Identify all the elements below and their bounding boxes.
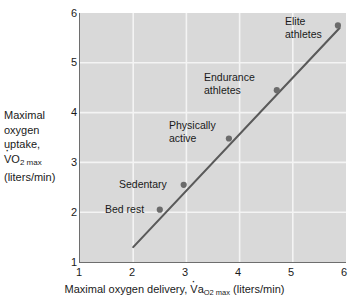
y-tick-2: 2 [55,207,77,218]
y-tick-5: 5 [55,57,77,68]
x-tick-1: 1 [72,267,86,278]
annotation-endurance-athletes-line-2: athletes [204,84,255,97]
y-axis-title-line-4: VO2 max [4,152,76,170]
y-axis-title-line-5: (liters/min) [4,170,76,185]
v-dot-symbol-y: V [4,152,11,167]
plot-area: Bed rest Sedentary Physically active End… [79,13,346,263]
x-axis-subscript: O2 max [204,288,230,297]
annotation-endurance-athletes-line-1: Endurance [204,71,255,84]
x-axis-title-suffix: (liters/min) [230,283,284,295]
y-axis-title: Maximal oxygen uptake, VO2 max (liters/m… [4,108,76,184]
data-points [157,22,341,212]
y-axis-title-line-2: oxygen [4,123,76,138]
data-point-elite-athletes [335,22,341,28]
annotation-physically-active-line-1: Physically [169,119,216,132]
chart-figure: 6 5 4 3 2 1 1 2 3 4 5 6 Maximal oxygen u… [0,0,349,302]
annotation-elite-athletes-line-2: athletes [285,28,322,41]
x-axis-title: Maximal oxygen delivery, VaO2 max (liter… [0,283,349,299]
data-point-endurance-athletes [274,87,280,93]
annotation-elite-athletes: Elite athletes [285,15,322,40]
y-tick-6: 6 [55,8,77,19]
x-tick-5: 5 [284,267,298,278]
annotation-physically-active-line-2: active [169,132,216,145]
annotation-bed-rest: Bed rest [105,203,144,215]
annotation-sedentary: Sedentary [119,178,167,190]
annotation-endurance-athletes: Endurance athletes [204,71,255,96]
x-axis-title-prefix: Maximal oxygen delivery, [65,283,191,295]
data-point-sedentary [181,182,187,188]
y-axis-title-line-1: Maximal [4,108,76,123]
data-point-bed-rest [157,207,163,213]
x-tick-4: 4 [231,267,245,278]
annotation-sedentary-text: Sedentary [119,178,167,190]
annotation-bed-rest-text: Bed rest [105,203,144,215]
y-axis-o-symbol: O [11,153,20,165]
annotation-elite-athletes-line-1: Elite [285,15,322,28]
annotation-physically-active: Physically active [169,119,216,144]
x-tick-6: 6 [337,267,349,278]
data-point-physically-active [226,135,232,141]
x-tick-3: 3 [178,267,192,278]
trend-line [133,28,339,247]
y-axis-subscript: 2 max [20,157,42,166]
y-axis-title-line-3: uptake, [4,137,76,152]
v-dot-symbol-x: V [190,283,197,296]
x-tick-2: 2 [125,267,139,278]
